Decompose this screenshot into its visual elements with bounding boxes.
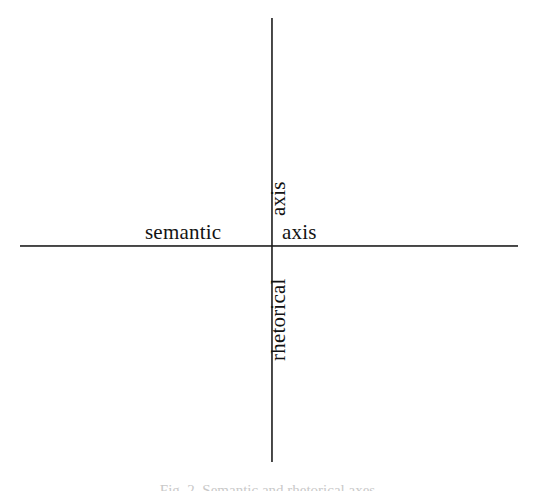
semantic-axis-label: semantic bbox=[145, 222, 221, 243]
figure-caption-text: Fig. 2. Semantic and rhetorical axes bbox=[0, 484, 535, 491]
horizontal-axis-line bbox=[20, 245, 518, 247]
vertical-axis-line bbox=[271, 18, 273, 462]
vertical-axis-word-label: axis bbox=[268, 181, 289, 216]
figure-caption: Fig. 2. Semantic and rhetorical axes bbox=[0, 484, 535, 491]
horizontal-axis-word-label: axis bbox=[282, 222, 317, 243]
rhetorical-axis-label: rhetorical bbox=[268, 279, 289, 361]
axes-figure: semantic axis axis rhetorical Fig. 2. Se… bbox=[0, 0, 535, 491]
